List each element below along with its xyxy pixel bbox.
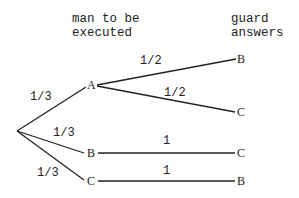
leaf-C-B: B [237,174,245,188]
node-A: A [87,78,96,92]
edge-A-B [97,59,236,85]
leaf-A-B: B [237,52,245,66]
prob-A-B: 1/2 [140,54,162,68]
node-B: B [87,146,95,160]
header-man-line2: executed [72,26,132,40]
prob-A-C: 1/2 [164,86,186,100]
prob-C-B: 1 [163,164,170,178]
header-guard-line2: answers [231,26,284,40]
header-man-line1: man to be [72,12,140,26]
leaf-A-C: C [237,105,245,119]
probability-tree-diagram: man to be executed guard answers A B C B… [0,0,299,198]
node-C: C [87,174,95,188]
prob-B-C: 1 [163,134,170,148]
prob-root-A: 1/3 [30,90,52,104]
leaf-B-C: C [237,146,245,160]
header-guard-line1: guard [231,12,269,26]
prob-root-C: 1/3 [37,166,59,180]
prob-root-B: 1/3 [53,126,75,140]
